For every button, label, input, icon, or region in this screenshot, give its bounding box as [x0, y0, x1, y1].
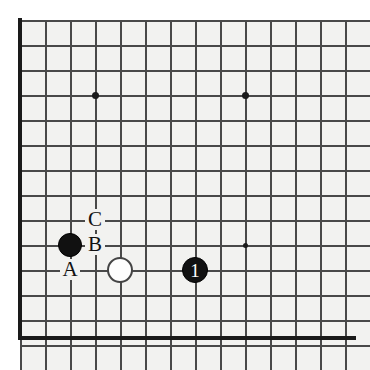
board-edge-left [18, 18, 22, 340]
grid-line-horizontal [20, 120, 370, 122]
grid-line-horizontal [20, 45, 370, 47]
black-stone-move-1[interactable]: 1 [182, 257, 208, 283]
go-board-surface[interactable]: 1 CBA [20, 20, 370, 370]
grid-line-horizontal [20, 170, 370, 172]
black-stone-corner[interactable] [58, 233, 82, 257]
star-point-upper-right [242, 92, 249, 99]
grid-line-horizontal [20, 295, 370, 297]
board-edge-bottom [18, 336, 356, 340]
grid-line-horizontal [20, 345, 370, 347]
grid-line-horizontal [20, 145, 370, 147]
grid-line-horizontal [20, 95, 370, 97]
star-point-lower-right [243, 243, 248, 248]
white-stone-contact[interactable] [107, 257, 133, 283]
stone-move-number: 1 [183, 258, 207, 282]
grid-line-horizontal [20, 70, 370, 72]
point-label-a: A [60, 259, 80, 280]
grid-line-horizontal [20, 220, 370, 222]
point-label-c: C [85, 209, 105, 230]
grid-line-horizontal [20, 195, 370, 197]
grid-line-horizontal [20, 20, 370, 22]
grid-line-horizontal [20, 320, 370, 322]
star-point-upper-left [92, 92, 99, 99]
point-label-b: B [85, 234, 105, 255]
